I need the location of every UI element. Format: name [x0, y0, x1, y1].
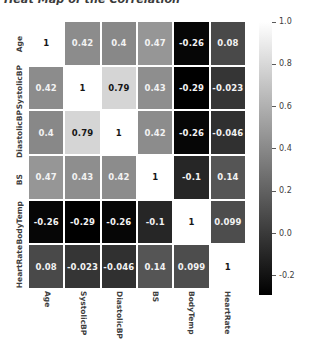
- heatmap-cell-value: 1: [225, 262, 231, 272]
- heatmap-cell-value: -0.26: [179, 128, 204, 138]
- y-axis-tick-text: DiastolicBP: [15, 110, 24, 158]
- heatmap-cell-value: 0.47: [144, 38, 165, 48]
- heatmap-cell-value: -0.26: [179, 38, 204, 48]
- heatmap-cell: 0.4: [29, 111, 63, 154]
- y-axis-tick-label: BodyTemp: [0, 201, 27, 245]
- x-axis-tick-label: HeartRate: [209, 291, 245, 361]
- heatmap-cell: -0.26: [174, 22, 208, 65]
- y-axis-tick-label: BS: [0, 158, 27, 201]
- x-axis-tick-label: SystolicBP: [65, 291, 101, 361]
- heatmap-cell: 0.14: [211, 156, 245, 199]
- heatmap-cell-value: 0.47: [35, 172, 56, 182]
- y-axis-tick-text: BS: [15, 174, 24, 185]
- y-axis-tick-text: HeartRate: [15, 245, 24, 288]
- heatmap-cell-value: 0.43: [144, 83, 165, 93]
- heatmap-cell-value: -0.023: [67, 262, 98, 272]
- heatmap-cell-value: 0.099: [178, 262, 205, 272]
- y-axis-tick-label: HeartRate: [0, 245, 27, 288]
- heatmap-cell-value: -0.29: [179, 83, 204, 93]
- heatmap-cell: -0.29: [65, 201, 99, 244]
- heatmap-cell: 1: [29, 22, 63, 65]
- heatmap-cell: 0.42: [138, 111, 172, 154]
- heatmap-cell-value: 0.4: [38, 128, 53, 138]
- heatmap-cell-value: 0.08: [35, 262, 56, 272]
- heatmap-cell: 0.43: [138, 67, 172, 110]
- heatmap-cell-value: 0.79: [108, 83, 129, 93]
- colorbar-tick-label: 0.8: [279, 60, 292, 68]
- heatmap-cell: 0.42: [65, 22, 99, 65]
- heatmap-cell: -0.1: [138, 201, 172, 244]
- heatmap-cell: -0.046: [102, 245, 136, 288]
- heatmap-cell-value: -0.26: [34, 217, 59, 227]
- heatmap-grid: 10.420.40.47-0.260.080.4210.790.43-0.29-…: [29, 22, 245, 288]
- heatmap-cell: -0.1: [174, 156, 208, 199]
- heatmap-cell: -0.26: [174, 111, 208, 154]
- colorbar-tick-mark: [272, 64, 276, 65]
- heatmap-cell-value: 0.14: [217, 172, 238, 182]
- heatmap-cell-value: 0.42: [108, 172, 129, 182]
- heatmap-cell: 1: [65, 67, 99, 110]
- heatmap-cell: 0.42: [29, 67, 63, 110]
- heatmap-cell: 0.79: [65, 111, 99, 154]
- heatmap-cell: 0.099: [211, 201, 245, 244]
- heatmap-cell: -0.29: [174, 67, 208, 110]
- heatmap-cell-value: 0.14: [144, 262, 165, 272]
- heatmap-cell: 0.099: [174, 245, 208, 288]
- heatmap-cell-value: -0.023: [212, 83, 243, 93]
- heatmap-cell: 0.08: [29, 245, 63, 288]
- heatmap-cell: 1: [174, 201, 208, 244]
- y-axis-tick-text: SystolicBP: [15, 65, 24, 109]
- colorbar-tick-mark: [272, 148, 276, 149]
- heatmap-cell-value: 0.42: [144, 128, 165, 138]
- heatmap-cell-value: -0.046: [212, 128, 243, 138]
- heatmap-cell-value: 0.42: [35, 83, 56, 93]
- heatmap-cell-value: -0.26: [106, 217, 131, 227]
- x-axis-tick-label: BodyTemp: [173, 291, 209, 361]
- heatmap-cell: 1: [211, 245, 245, 288]
- colorbar-tick-label: 1.0: [279, 18, 292, 26]
- y-axis-tick-text: Age: [15, 36, 24, 52]
- heatmap-cell-value: 0.099: [214, 217, 241, 227]
- heatmap-cell: 0.47: [29, 156, 63, 199]
- heatmap-cell: 0.43: [65, 156, 99, 199]
- y-axis-labels: AgeSystolicBPDiastolicBPBSBodyTempHeartR…: [0, 22, 27, 288]
- colorbar: 1.00.80.60.40.20.0-0.2: [259, 22, 310, 295]
- heatmap-cell-value: -0.29: [70, 217, 95, 227]
- heatmap-cell: -0.26: [29, 201, 63, 244]
- heatmap-cell-value: 1: [188, 217, 194, 227]
- heatmap-cell-value: -0.1: [182, 172, 201, 182]
- colorbar-tick-label: 0.6: [279, 102, 292, 110]
- colorbar-tick-label: 0.0: [279, 229, 292, 237]
- chart-title: Heat Map of the Correlation: [4, 0, 180, 6]
- heatmap-cell-value: 0.4: [111, 38, 126, 48]
- y-axis-tick-label: Age: [0, 22, 27, 65]
- colorbar-gradient: [259, 22, 272, 295]
- heatmap-cell: -0.023: [65, 245, 99, 288]
- heatmap-cell: -0.046: [211, 111, 245, 154]
- colorbar-tick-mark: [272, 22, 276, 23]
- heatmap-cell: 0.47: [138, 22, 172, 65]
- heatmap-cell-value: 1: [43, 38, 49, 48]
- x-axis-tick-text: BS: [151, 291, 160, 302]
- x-axis-tick-text: DiastolicBP: [115, 291, 124, 339]
- colorbar-tick-label: 0.4: [279, 144, 292, 152]
- x-axis-tick-label: Age: [29, 291, 65, 361]
- heatmap-cell: -0.26: [102, 201, 136, 244]
- x-axis-labels: AgeSystolicBPDiastolicBPBSBodyTempHeartR…: [29, 291, 245, 361]
- heatmap-cell: 0.14: [138, 245, 172, 288]
- heatmap-cell-value: 1: [152, 172, 158, 182]
- heatmap-cell-value: 0.42: [72, 38, 93, 48]
- heatmap-cell-value: -0.046: [103, 262, 134, 272]
- y-axis-tick-text: BodyTemp: [15, 201, 24, 245]
- heatmap-cell: 1: [138, 156, 172, 199]
- colorbar-tick-mark: [272, 275, 276, 276]
- y-axis-tick-label: DiastolicBP: [0, 110, 27, 158]
- heatmap-cell-value: 0.08: [217, 38, 238, 48]
- x-axis-tick-text: Age: [43, 291, 52, 307]
- heatmap-cell: -0.023: [211, 67, 245, 110]
- colorbar-tick-label: -0.2: [279, 271, 295, 279]
- colorbar-tick-mark: [272, 233, 276, 234]
- colorbar-tick-mark: [272, 191, 276, 192]
- colorbar-tick-label: 0.2: [279, 187, 292, 195]
- heatmap-cell: 0.08: [211, 22, 245, 65]
